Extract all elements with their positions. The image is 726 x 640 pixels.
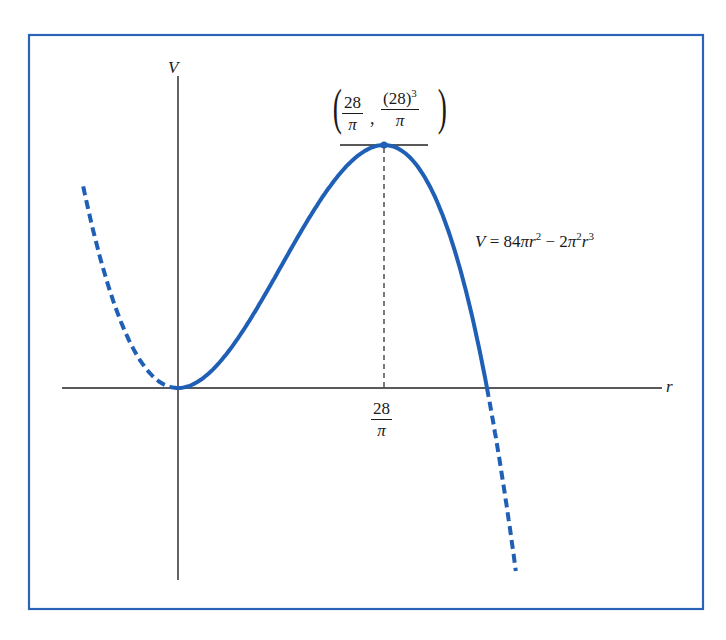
max-point-y-numerator: (28)3 xyxy=(381,90,419,110)
graph-canvas xyxy=(0,0,726,640)
max-point-open-paren: ( xyxy=(333,82,342,132)
max-point-y-fraction: (28)3 π xyxy=(381,90,419,130)
peak-point xyxy=(380,141,387,148)
equation-coef2: 2 xyxy=(559,232,568,251)
max-point-x-denominator: π xyxy=(348,114,357,134)
max-point-close-paren: ) xyxy=(438,82,447,132)
equation-exp1: 2 xyxy=(536,230,542,242)
equation-exp2: 3 xyxy=(588,230,594,242)
max-point-x-fraction: 28 π xyxy=(342,94,363,134)
equation-minus: − xyxy=(545,232,555,251)
max-point-y-base: (28) xyxy=(383,89,411,108)
max-point-y-denominator: π xyxy=(396,110,405,130)
equation-lhs: V xyxy=(475,232,485,251)
max-point-comma: , xyxy=(370,108,375,129)
max-point-y-exponent: 3 xyxy=(411,87,417,99)
figure-frame xyxy=(29,35,703,609)
curve-left-dashed xyxy=(83,186,178,388)
max-point-x-numerator: 28 xyxy=(342,94,363,114)
equation-var1: r xyxy=(529,232,536,251)
equation-coef1: 84 xyxy=(503,232,520,251)
r-tick-denominator: π xyxy=(377,420,386,440)
equation-pi1: π xyxy=(520,232,529,251)
r-tick-numerator: 28 xyxy=(371,400,392,420)
graph-figure: V r ( 28 π , (28)3 π ) V = 84πr2 − 2π2r3… xyxy=(0,0,726,640)
equation-equals: = xyxy=(490,232,500,251)
equation-pi2: π xyxy=(568,232,577,251)
r-axis-label: r xyxy=(666,378,673,395)
v-axis-label: V xyxy=(168,59,178,76)
curve-equation: V = 84πr2 − 2π2r3 xyxy=(475,232,594,252)
curve-right-dashed xyxy=(487,388,516,571)
r-tick-label: 28 π xyxy=(371,400,392,440)
curve-solid xyxy=(178,145,487,388)
